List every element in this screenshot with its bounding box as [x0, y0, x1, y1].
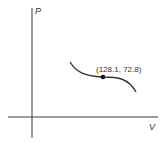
x-axis-label: V: [149, 122, 156, 132]
y-axis-label: P: [35, 6, 41, 16]
point-annotation: (128.1, 72.8): [96, 65, 142, 74]
chart: P V (128.1, 72.8): [0, 0, 165, 144]
inflection-point-marker: [101, 75, 106, 80]
